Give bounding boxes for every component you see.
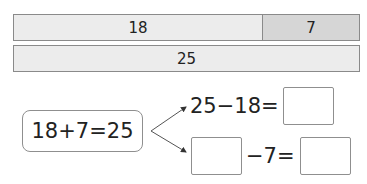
arrow-up-icon [151,107,186,131]
blank-box-2[interactable] [191,137,242,175]
answer-box-2[interactable] [300,137,351,175]
equation-1-text: 25−18= [190,96,279,117]
answer-box-1[interactable] [283,87,334,125]
arrow-down-icon [151,131,186,152]
equation-2-text: −7= [246,146,295,167]
